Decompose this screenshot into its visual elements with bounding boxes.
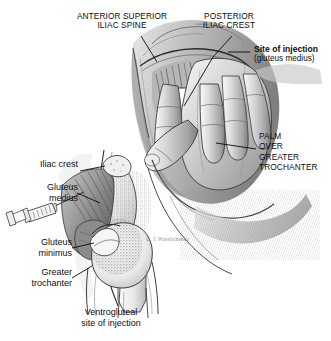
label-greater-trochanter: Greater trochanter <box>4 267 72 289</box>
middle-finger <box>200 84 225 163</box>
iliac-crest-bone <box>103 156 131 177</box>
anatomical-cutaway-illustration <box>6 150 158 318</box>
label-site-of-injection: Site of injection <box>254 45 331 54</box>
caption-ventrogluteal-site-of-injection: Ventrogluteal site of injection <box>56 307 166 329</box>
label-anterior-superior-iliac-spine: ANTERIOR SUPERIOR ILIAC SPINE <box>66 12 178 30</box>
medical-illustration-figure: ANTERIOR SUPERIOR ILIAC SPINE POSTERIOR … <box>0 0 331 341</box>
label-site-of-injection-sub: (gluteus medius) <box>254 55 331 64</box>
label-gluteus-minimus: Gluteus minimus <box>8 237 72 259</box>
label-gluteus-medius: Gluteus medius <box>12 182 78 204</box>
label-posterior-iliac-crest: POSTERIOR ILIAC CREST <box>190 12 268 30</box>
label-palm-over-greater-trochanter: PALM OVER GREATER TROCHANTER <box>259 131 331 172</box>
artist-signature: G. J. Wassilchenko <box>146 236 189 242</box>
label-iliac-crest: Iliac crest <box>16 160 78 170</box>
